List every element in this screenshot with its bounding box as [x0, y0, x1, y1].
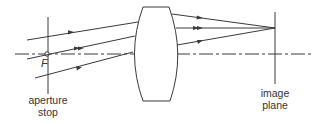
- arrow-icon: [197, 26, 203, 30]
- aperture-stop-label: aperture stop: [18, 94, 78, 118]
- arrow-icon: [197, 16, 204, 20]
- aperture-stop-label-line1: aperture: [18, 94, 78, 106]
- image-plane-label: image plane: [250, 87, 300, 111]
- ray-top-outgoing: [172, 14, 275, 28]
- ray-top-incoming: [27, 22, 138, 40]
- image-plane-label-line1: image: [250, 87, 300, 99]
- focal-point-label: F: [41, 57, 48, 69]
- ray-bottom-outgoing: [177, 28, 275, 45]
- aperture-stop-label-line2: stop: [18, 106, 78, 118]
- ray-bottom-incoming: [35, 52, 133, 78]
- arrow-icon: [76, 67, 82, 71]
- image-plane-label-line2: plane: [250, 99, 300, 111]
- lens: [135, 7, 178, 101]
- arrow-icon: [197, 40, 203, 44]
